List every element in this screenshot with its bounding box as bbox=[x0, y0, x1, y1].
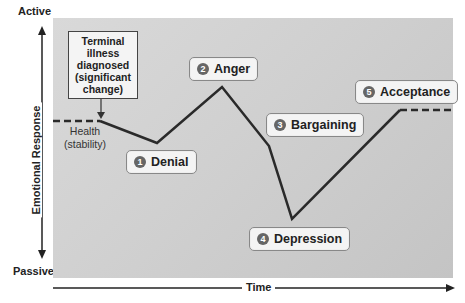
stage-depression: 4 Depression bbox=[249, 227, 350, 251]
stage-bargaining: 3 Bargaining bbox=[266, 113, 364, 137]
stage-label: Depression bbox=[274, 232, 342, 246]
badge-4-icon: 4 bbox=[257, 233, 269, 245]
stage-label: Acceptance bbox=[380, 85, 450, 99]
diagnosis-callout: Terminal illness diagnosed (significant … bbox=[68, 31, 138, 99]
x-axis-label: Time bbox=[242, 281, 275, 293]
badge-2-icon: 2 bbox=[197, 63, 209, 75]
stage-label: Denial bbox=[151, 155, 189, 169]
stage-denial: 1 Denial bbox=[126, 150, 197, 174]
badge-5-icon: 5 bbox=[363, 86, 375, 98]
stage-label: Anger bbox=[214, 62, 250, 76]
stage-label: Bargaining bbox=[291, 118, 356, 132]
badge-1-icon: 1 bbox=[134, 156, 146, 168]
stage-anger: 2 Anger bbox=[189, 57, 258, 81]
badge-3-icon: 3 bbox=[274, 119, 286, 131]
baseline-label: Health (stability) bbox=[60, 125, 110, 151]
stage-acceptance: 5 Acceptance bbox=[355, 80, 458, 104]
